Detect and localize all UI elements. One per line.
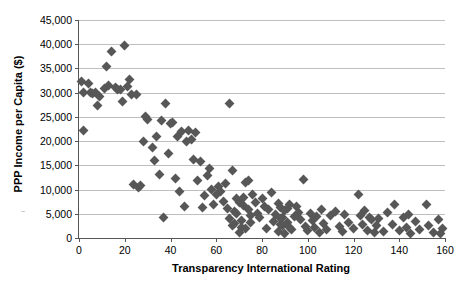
y-tick-label: 0 <box>66 232 72 244</box>
y-tick-label: 25,000 <box>40 111 72 123</box>
x-tick-mark <box>171 238 172 242</box>
data-point <box>152 131 162 141</box>
y-tick-label: 35,000 <box>40 62 72 74</box>
x-tick-mark <box>399 238 400 242</box>
data-point <box>198 203 208 213</box>
data-point <box>101 61 111 71</box>
data-point <box>378 227 388 237</box>
data-point <box>422 199 432 209</box>
data-point <box>147 143 157 153</box>
x-tick-label: 100 <box>299 244 317 256</box>
x-axis-title: Transparency International Rating <box>78 262 444 274</box>
data-point <box>83 79 93 89</box>
x-tick-label: 60 <box>210 244 222 256</box>
data-point <box>175 187 185 197</box>
y-tick-label: 15,000 <box>40 159 72 171</box>
data-point <box>156 116 166 126</box>
data-point <box>383 208 393 218</box>
data-point <box>106 47 116 57</box>
data-point <box>255 213 265 223</box>
y-axis-title: PPP Income per Capita ($) <box>9 10 27 238</box>
data-point <box>161 98 171 108</box>
data-point <box>298 174 308 184</box>
x-tick-mark <box>262 238 263 242</box>
y-tick-label: 20,000 <box>40 135 72 147</box>
chart-figure: PPP Income per Capita ($) Transparency I… <box>0 0 462 289</box>
data-point <box>202 171 212 181</box>
data-point <box>163 149 173 159</box>
data-point <box>179 202 189 212</box>
data-point <box>170 173 180 183</box>
data-point <box>118 97 128 107</box>
data-point <box>225 98 235 108</box>
x-tick-mark <box>79 238 80 242</box>
x-tick-label: 0 <box>76 244 82 256</box>
data-point <box>200 191 210 201</box>
data-point <box>92 100 102 110</box>
data-point <box>154 169 164 179</box>
data-point <box>266 188 276 198</box>
y-tick-label: 45,000 <box>40 14 72 26</box>
y-tick-label: 10,000 <box>40 184 72 196</box>
y-tick-label: 30,000 <box>40 87 72 99</box>
x-tick-mark <box>308 238 309 242</box>
data-point <box>193 176 203 186</box>
x-tick-label: 160 <box>436 244 454 256</box>
x-tick-mark <box>445 238 446 242</box>
y-tick-label: 40,000 <box>40 38 72 50</box>
data-point <box>159 212 169 222</box>
x-tick-label: 40 <box>165 244 177 256</box>
plot-area: 05,00010,00015,00020,00025,00030,00035,0… <box>78 20 445 239</box>
stray-artifact: ~ <box>21 208 25 215</box>
data-point <box>138 137 148 147</box>
data-point <box>150 156 160 166</box>
data-point <box>79 126 89 136</box>
x-tick-mark <box>125 238 126 242</box>
y-tick-label: 5,000 <box>46 208 72 220</box>
x-tick-mark <box>354 238 355 242</box>
data-point <box>227 166 237 176</box>
data-point <box>353 190 363 200</box>
x-tick-label: 20 <box>119 244 131 256</box>
x-tick-label: 80 <box>256 244 268 256</box>
data-point <box>120 41 130 51</box>
data-point <box>349 224 359 234</box>
x-tick-label: 120 <box>345 244 363 256</box>
scatter-points <box>79 20 445 238</box>
data-point <box>262 223 272 233</box>
data-point <box>390 200 400 210</box>
x-tick-mark <box>216 238 217 242</box>
x-tick-label: 140 <box>390 244 408 256</box>
